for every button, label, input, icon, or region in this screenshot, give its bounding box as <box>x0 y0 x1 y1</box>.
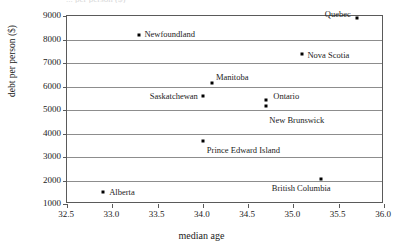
y-tick-label: 7000 <box>30 58 61 67</box>
data-point-label: New Brunswick <box>269 115 324 124</box>
data-point-label: Manitoba <box>216 72 249 81</box>
data-point <box>355 17 358 20</box>
x-tick-mark <box>293 204 294 208</box>
y-tick-mark <box>63 134 67 135</box>
x-tick-label: 32.5 <box>58 210 74 219</box>
data-point-label: Newfoundland <box>144 29 195 38</box>
plot-area: QuebecNewfoundlandNova ScotiaManitobaSas… <box>66 15 383 203</box>
y-tick-label: 9000 <box>30 11 61 20</box>
clipped-title-sliver: ... per person ($) <box>66 0 266 3</box>
data-point-label: Saskatchewan <box>150 91 198 100</box>
gridline-horizontal <box>67 181 382 182</box>
y-tick-mark <box>63 87 67 88</box>
y-tick-label: 6000 <box>30 82 61 91</box>
y-tick-mark <box>63 63 67 64</box>
x-tick-mark <box>384 204 385 208</box>
x-tick-label: 35.5 <box>330 210 346 219</box>
x-tick-mark <box>248 204 249 208</box>
gridline-horizontal <box>67 110 382 111</box>
data-point <box>201 94 204 97</box>
y-axis-title: debt per person ($) <box>7 6 17 116</box>
data-point <box>201 139 204 142</box>
x-tick-mark <box>67 204 68 208</box>
data-point <box>265 104 268 107</box>
data-point <box>210 81 213 84</box>
x-tick-mark <box>158 204 159 208</box>
y-tick-mark <box>63 16 67 17</box>
data-point-label: British Columbia <box>272 184 331 193</box>
data-point <box>102 191 105 194</box>
y-tick-mark <box>63 110 67 111</box>
x-tick-label: 33.0 <box>103 210 119 219</box>
x-tick-mark <box>112 204 113 208</box>
x-axis-title: median age <box>0 230 403 241</box>
data-point <box>265 98 268 101</box>
y-tick-label: 3000 <box>30 152 61 161</box>
data-point-label: Ontario <box>273 91 299 100</box>
y-tick-label: 8000 <box>30 35 61 44</box>
y-tick-label: 5000 <box>30 105 61 114</box>
gridline-horizontal <box>67 63 382 64</box>
x-tick-label: 33.5 <box>149 210 165 219</box>
data-point-label: Nova Scotia <box>307 50 349 59</box>
y-tick-mark <box>63 181 67 182</box>
data-point-label: Quebec <box>325 10 351 19</box>
data-point <box>301 52 304 55</box>
x-tick-mark <box>203 204 204 208</box>
x-tick-label: 36.0 <box>375 210 391 219</box>
data-point <box>319 178 322 181</box>
y-tick-label: 1000 <box>30 199 61 208</box>
x-tick-label: 35.0 <box>285 210 301 219</box>
data-point-label: Prince Edward Island <box>207 145 280 154</box>
y-tick-mark <box>63 40 67 41</box>
data-point-label: Alberta <box>109 188 135 197</box>
gridline-horizontal <box>67 134 382 135</box>
gridline-horizontal <box>67 40 382 41</box>
y-tick-label: 2000 <box>30 176 61 185</box>
gridline-horizontal <box>67 157 382 158</box>
data-point <box>138 33 141 36</box>
gridline-horizontal <box>67 87 382 88</box>
x-tick-label: 34.5 <box>239 210 255 219</box>
x-tick-mark <box>339 204 340 208</box>
y-tick-mark <box>63 157 67 158</box>
scatter-plot-figure: ... per person ($) debt per person ($) Q… <box>0 0 403 252</box>
y-tick-label: 4000 <box>30 129 61 138</box>
x-tick-label: 34.0 <box>194 210 210 219</box>
